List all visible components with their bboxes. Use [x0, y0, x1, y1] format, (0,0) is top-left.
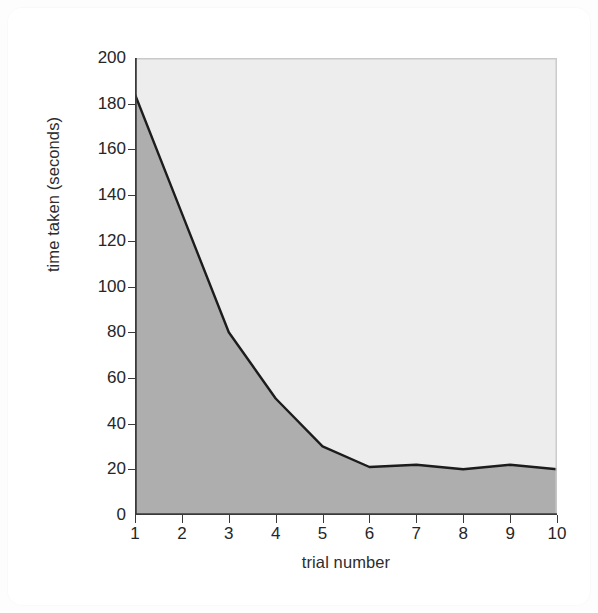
x-tick-mark — [416, 515, 417, 523]
y-tick-mark — [128, 424, 135, 425]
x-tick-mark — [276, 515, 277, 523]
x-tick-label: 4 — [253, 524, 299, 544]
x-tick-label: 5 — [300, 524, 346, 544]
plot-area — [135, 58, 557, 515]
x-tick-label: 10 — [534, 524, 580, 544]
y-tick-mark — [128, 378, 135, 379]
x-tick-mark — [229, 515, 230, 523]
x-tick-mark — [463, 515, 464, 523]
x-tick-label: 2 — [159, 524, 205, 544]
y-tick-mark — [128, 104, 135, 105]
x-tick-mark — [510, 515, 511, 523]
x-axis-tick-labels: 12345678910 — [135, 524, 575, 550]
y-tick-mark — [128, 332, 135, 333]
x-tick-mark — [182, 515, 183, 523]
x-tick-label: 9 — [487, 524, 533, 544]
x-tick-label: 3 — [206, 524, 252, 544]
x-tick-mark — [557, 515, 558, 523]
x-tick-label: 8 — [440, 524, 486, 544]
x-tick-label: 7 — [393, 524, 439, 544]
y-tick-mark — [128, 241, 135, 242]
x-tick-mark — [323, 515, 324, 523]
y-tick-mark — [128, 287, 135, 288]
y-tick-mark — [128, 149, 135, 150]
x-tick-mark — [369, 515, 370, 523]
chart-figure: time taken (seconds) 0204060801001201401… — [0, 0, 598, 613]
page-root: time taken (seconds) 0204060801001201401… — [0, 0, 598, 613]
x-tick-mark — [135, 515, 136, 523]
x-tick-label: 6 — [346, 524, 392, 544]
x-tick-label: 1 — [112, 524, 158, 544]
y-axis-tick-marks — [0, 58, 140, 515]
y-tick-mark — [128, 195, 135, 196]
area-chart-svg — [135, 58, 557, 515]
x-axis-label: trial number — [135, 553, 557, 572]
y-tick-mark — [128, 469, 135, 470]
